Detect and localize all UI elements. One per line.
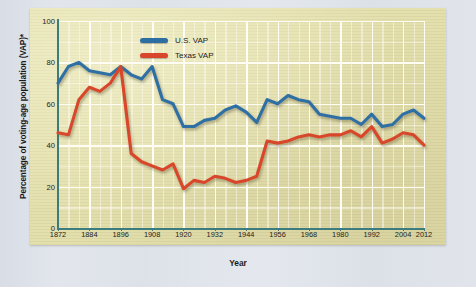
- x-tickmark-1956: [278, 228, 279, 231]
- y-tick-100: 100: [42, 17, 55, 26]
- y-tick-40: 40: [47, 141, 55, 150]
- x-tickmark-1980: [340, 228, 341, 231]
- legend-swatch-texas: [140, 53, 168, 58]
- x-tick-1944: 1944: [238, 230, 254, 239]
- legend-label-texas: Texas VAP: [175, 51, 214, 60]
- x-tickmark-1908: [152, 228, 153, 231]
- x-tick-1968: 1968: [301, 230, 317, 239]
- x-tick-1896: 1896: [113, 230, 129, 239]
- series-lines: [58, 21, 424, 228]
- y-axis-title: Percentage of voting-age population (VAP…: [19, 12, 28, 222]
- legend-label-us: U.S. VAP: [175, 36, 208, 45]
- chart-figure: Percentage of voting-age population (VAP…: [0, 0, 476, 287]
- x-tick-1932: 1932: [207, 230, 223, 239]
- series-line-u-s-vap: [58, 62, 424, 126]
- x-tick-1956: 1956: [269, 230, 285, 239]
- legend: U.S. VAP Texas VAP: [140, 36, 214, 60]
- x-tick-1992: 1992: [363, 230, 379, 239]
- x-tick-2004: 2004: [395, 230, 411, 239]
- y-tick-20: 20: [47, 182, 55, 191]
- x-tick-1872: 1872: [50, 230, 66, 239]
- x-tick-1908: 1908: [144, 230, 160, 239]
- x-tickmark-1968: [309, 228, 310, 231]
- x-tickmark-1932: [215, 228, 216, 231]
- x-tick-1884: 1884: [81, 230, 97, 239]
- x-tickmark-2012: [424, 228, 425, 231]
- gridline-vertical: [424, 21, 425, 228]
- x-tickmark-1992: [372, 228, 373, 231]
- x-tick-2012: 2012: [416, 230, 432, 239]
- x-tick-1920: 1920: [175, 230, 191, 239]
- x-axis-title: Year: [0, 258, 476, 268]
- series-line-texas-vap: [58, 67, 424, 189]
- x-tick-1980: 1980: [332, 230, 348, 239]
- y-tick-60: 60: [47, 99, 55, 108]
- x-tickmark-2004: [403, 228, 404, 231]
- legend-item-us: U.S. VAP: [140, 36, 214, 45]
- legend-swatch-us: [140, 38, 168, 43]
- x-tickmark-1872: [58, 228, 59, 231]
- y-tick-80: 80: [47, 58, 55, 67]
- x-tickmark-1920: [183, 228, 184, 231]
- legend-item-texas: Texas VAP: [140, 51, 214, 60]
- x-tickmark-1896: [121, 228, 122, 231]
- x-tickmark-1944: [246, 228, 247, 231]
- x-tickmark-1884: [89, 228, 90, 231]
- chart-panel: 020406080100 187218841896190819201932194…: [30, 8, 446, 245]
- plot-area: 020406080100 187218841896190819201932194…: [58, 21, 424, 228]
